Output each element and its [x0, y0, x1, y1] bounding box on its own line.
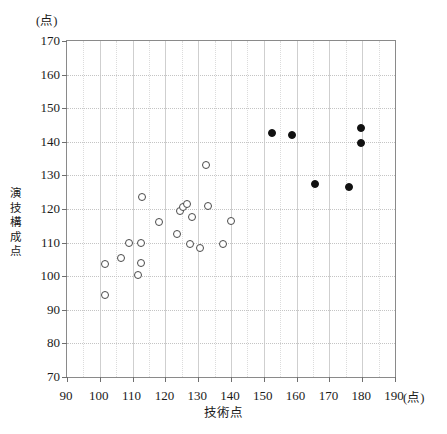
data-point-open-circles	[101, 291, 109, 299]
data-point-open-circles	[183, 200, 191, 208]
data-point-open-circles	[137, 259, 145, 267]
y-axis-tick	[62, 276, 67, 277]
gridline-horizontal	[67, 142, 395, 143]
x-axis-tick	[329, 377, 330, 382]
data-point-open-circles	[134, 271, 142, 279]
y-axis-tick	[62, 343, 67, 344]
data-point-open-circles	[227, 217, 235, 225]
x-axis-tick	[198, 377, 199, 382]
gridline-horizontal	[67, 243, 395, 244]
data-point-open-circles	[202, 161, 210, 169]
y-axis-tick-label: 140	[22, 134, 60, 147]
x-axis-tick	[165, 377, 166, 382]
x-axis-tick	[297, 377, 298, 382]
gridline-horizontal	[67, 343, 395, 344]
data-point-open-circles	[155, 218, 163, 226]
data-point-filled-circles	[288, 131, 296, 139]
y-axis-tick-label: 70	[22, 370, 60, 383]
data-point-open-circles	[101, 260, 109, 268]
x-axis-tick-label: 190	[371, 389, 417, 402]
y-axis-tick-label: 100	[22, 269, 60, 282]
y-axis-tick-label: 80	[22, 336, 60, 349]
y-axis-tick-label: 120	[22, 202, 60, 215]
y-axis-tick-label: 150	[22, 101, 60, 114]
x-axis-tick	[100, 377, 101, 382]
gridline-horizontal	[67, 175, 395, 176]
x-axis-tick	[395, 377, 396, 382]
data-point-open-circles	[204, 202, 212, 210]
gridline-horizontal	[67, 108, 395, 109]
data-point-open-circles	[186, 240, 194, 248]
data-point-filled-circles	[268, 129, 276, 137]
x-axis-tick	[231, 377, 232, 382]
x-axis-tick	[362, 377, 363, 382]
y-axis-tick	[62, 142, 67, 143]
y-axis-tick-label: 130	[22, 168, 60, 181]
data-point-filled-circles	[345, 183, 353, 191]
x-axis-title: 技術点	[0, 406, 447, 420]
y-axis-tick	[62, 310, 67, 311]
y-axis-tick	[62, 209, 67, 210]
y-axis-tick-label: 170	[22, 34, 60, 47]
y-axis-tick-label: 160	[22, 67, 60, 80]
data-point-open-circles	[196, 244, 204, 252]
y-axis-tick	[62, 75, 67, 76]
plot-area	[66, 40, 396, 378]
data-point-open-circles	[117, 254, 125, 262]
gridline-horizontal	[67, 310, 395, 311]
y-axis-tick-label: 110	[22, 235, 60, 248]
x-axis-tick	[264, 377, 265, 382]
data-point-open-circles	[219, 240, 227, 248]
data-point-open-circles	[138, 193, 146, 201]
x-axis-tick	[133, 377, 134, 382]
data-point-filled-circles	[357, 124, 365, 132]
x-axis-tick	[67, 377, 68, 382]
y-axis-tick-label: 90	[22, 302, 60, 315]
y-axis-tick	[62, 108, 67, 109]
data-point-filled-circles	[357, 139, 365, 147]
scatter-chart-figure: (点) 演技構成点 技術点 (点) 7080901001101201301401…	[0, 0, 447, 434]
y-axis-tick	[62, 243, 67, 244]
y-axis-tick	[62, 41, 67, 42]
data-point-open-circles	[137, 239, 145, 247]
data-point-open-circles	[188, 213, 196, 221]
data-point-open-circles	[125, 239, 133, 247]
y-axis-tick	[62, 175, 67, 176]
y-axis-unit-label: (点)	[36, 14, 57, 28]
gridline-horizontal	[67, 75, 395, 76]
gridline-horizontal	[67, 209, 395, 210]
data-point-open-circles	[173, 230, 181, 238]
gridline-horizontal	[67, 276, 395, 277]
y-axis-title: 演技構成点	[8, 186, 23, 259]
data-point-filled-circles	[311, 180, 319, 188]
